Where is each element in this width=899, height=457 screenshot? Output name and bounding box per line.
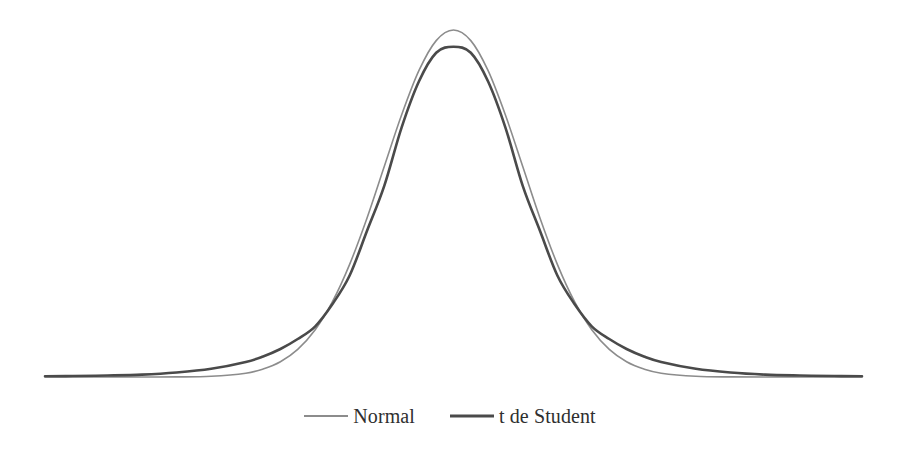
legend-item-t-de-student[interactable]: t de Student [449, 406, 596, 426]
legend-label-t-de-student: t de Student [499, 406, 596, 426]
series-line-t-de-student [45, 47, 862, 377]
chart-legend: Normal t de Student [0, 398, 899, 434]
density-curves-svg [0, 0, 899, 457]
legend-line-swatch-t-de-student [449, 409, 495, 423]
series-group [45, 30, 862, 377]
series-line-normal [45, 30, 862, 377]
legend-line-swatch-normal [303, 409, 349, 423]
chart-container: Normal t de Student [0, 0, 899, 457]
plot-area [0, 0, 899, 457]
legend-item-normal[interactable]: Normal [303, 406, 415, 426]
legend-label-normal: Normal [353, 406, 415, 426]
